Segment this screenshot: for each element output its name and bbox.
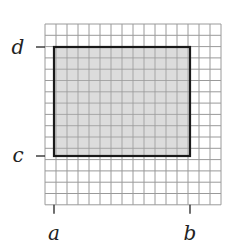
double-integral-region-diagram: d c a b	[0, 0, 232, 252]
label-d: d	[12, 35, 25, 59]
label-c: c	[12, 143, 23, 167]
label-b: b	[184, 221, 197, 245]
diagram-canvas: d c a b	[0, 0, 232, 252]
label-a: a	[48, 221, 60, 245]
